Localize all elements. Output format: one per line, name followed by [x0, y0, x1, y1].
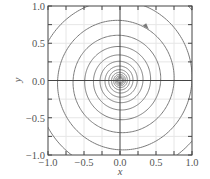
y-axis-label: y: [12, 77, 23, 83]
spiral-trajectory: [37, 0, 210, 173]
y-tick-label: −0.5: [26, 113, 45, 124]
x-tick-label: −0.5: [74, 157, 93, 168]
x-axis-label: x: [117, 166, 123, 177]
x-tick-label: 0.5: [149, 157, 162, 168]
x-tick-label: 1.0: [185, 157, 198, 168]
y-tick-label: 0.0: [32, 76, 45, 87]
y-tick-label: 0.5: [32, 38, 45, 49]
y-tick-labels: −1.0−0.50.00.51.0: [26, 1, 45, 161]
y-tick-label: −1.0: [26, 150, 45, 161]
spiral-phase-portrait: −1.0−0.50.00.51.0 −1.0−0.50.00.51.0 x y: [0, 0, 210, 179]
y-tick-label: 1.0: [32, 1, 45, 12]
